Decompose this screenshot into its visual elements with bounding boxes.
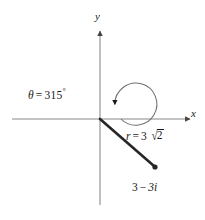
theta-value: 315	[45, 89, 63, 101]
point-real-part: 3	[132, 181, 138, 193]
radius-label: r=3 √2	[126, 129, 164, 143]
y-axis-label: y	[95, 11, 100, 22]
point-imaginary-part: 3i	[148, 181, 157, 193]
diagram-canvas	[0, 0, 205, 220]
r-coefficient: 3	[141, 130, 147, 142]
radicand: 2	[157, 129, 164, 142]
point-marker	[152, 164, 157, 169]
theta-equals: =	[34, 89, 45, 101]
degree-icon: °	[62, 87, 66, 96]
x-axis-label: x	[191, 108, 196, 119]
complex-plane-diagram: y x θ=315° r=3 √2 3−3i	[0, 0, 205, 220]
square-root-icon: √2	[150, 129, 164, 143]
r-equals: =	[130, 130, 141, 142]
minus-sign: −	[138, 181, 149, 193]
theta-label: θ=315°	[28, 88, 66, 101]
theta-symbol: θ	[28, 89, 34, 101]
point-label: 3−3i	[132, 182, 157, 194]
radius-segment	[100, 119, 154, 166]
